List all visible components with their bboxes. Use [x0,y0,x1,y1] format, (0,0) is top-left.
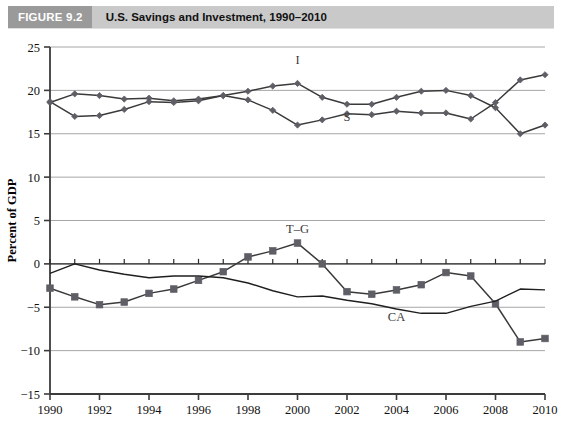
chart-area: 2520151050−5−10−15 199019921994199619982… [0,30,562,430]
data-point-marker [245,88,251,94]
data-point-marker [195,277,202,284]
y-tick-label: 25 [28,41,41,55]
data-point-marker [344,288,351,295]
y-tick-label: 10 [28,171,41,185]
data-point-marker [121,299,128,306]
y-tick-label: 0 [34,257,40,271]
series-labels-group: IST–GCA [286,53,405,324]
data-point-marker [468,92,474,98]
figure-title: U.S. Savings and Investment, 1990–2010 [92,6,327,28]
series-label-s: S [344,110,351,124]
y-tick-label: 15 [28,127,41,141]
series-label-i: I [295,53,299,67]
data-point-marker [220,268,227,275]
data-series-group [47,72,549,346]
data-point-marker [542,122,548,128]
data-point-marker [245,254,252,261]
x-tick-label: 2000 [285,403,310,417]
y-axis-title: Percent of GDP [5,178,19,262]
data-point-marker [319,261,326,268]
y-tick-label: 5 [34,214,40,228]
y-axis-title-group: Percent of GDP [5,178,19,262]
x-tick-label: 2004 [384,403,410,417]
data-point-marker [393,108,399,114]
figure-header: FIGURE 9.2 U.S. Savings and Investment, … [8,6,554,28]
y-tick-label: 20 [28,84,41,98]
y-axis-ticks-group: 2520151050−5−10−15 [20,41,50,402]
x-tick-label: 1994 [137,403,163,417]
x-tick-label: 1992 [87,403,112,417]
data-point-marker [393,287,400,294]
savings-investment-line-chart: 2520151050−5−10−15 199019921994199619982… [0,30,562,430]
data-point-marker [443,269,450,276]
data-point-marker [71,294,78,301]
data-point-marker [146,290,153,297]
data-point-marker [319,94,325,100]
x-tick-label: 2002 [335,403,360,417]
y-tick-label: −5 [27,301,40,315]
data-point-marker [319,117,325,123]
data-point-marker [269,248,276,255]
data-point-marker [170,286,177,293]
data-point-marker [393,94,399,100]
data-point-marker [47,285,54,292]
data-point-marker [443,110,449,116]
y-tick-label: −15 [20,388,40,402]
series-line [50,243,545,342]
x-tick-label: 1990 [38,403,63,417]
series-line [50,264,545,313]
x-tick-label: 2008 [483,403,508,417]
data-point-marker [369,101,375,107]
data-point-marker [294,240,301,247]
data-point-marker [220,92,226,98]
series-3 [47,240,549,345]
data-point-marker [344,101,350,107]
y-tick-label: −10 [20,344,40,358]
data-point-marker [418,281,425,288]
data-point-marker [542,72,548,78]
data-point-marker [270,83,276,89]
data-point-marker [418,110,424,116]
series-label-tg: T–G [286,222,309,236]
data-point-marker [121,106,127,112]
data-point-marker [517,339,524,346]
data-point-marker [96,112,102,118]
figure-number-badge: FIGURE 9.2 [8,6,92,28]
x-tick-label: 2006 [434,403,459,417]
data-point-marker [369,112,375,118]
data-point-marker [467,273,474,280]
data-point-marker [245,97,251,103]
data-point-marker [418,88,424,94]
series-label-ca: CA [388,310,405,324]
x-tick-label: 1996 [186,403,211,417]
data-point-marker [368,291,375,298]
x-tick-label: 2010 [533,403,558,417]
data-point-marker [96,301,103,308]
series-4 [50,264,545,313]
data-point-marker [72,91,78,97]
x-tick-label: 1998 [236,403,261,417]
data-point-marker [542,335,549,342]
data-point-marker [270,107,276,113]
data-point-marker [121,96,127,102]
data-point-marker [443,87,449,93]
data-point-marker [294,80,300,86]
data-point-marker [72,113,78,119]
data-point-marker [96,92,102,98]
